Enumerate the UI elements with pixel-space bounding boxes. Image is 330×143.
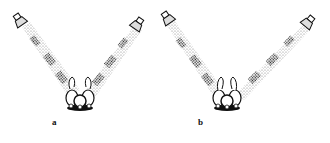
panel-a xyxy=(11,11,146,111)
panel-b xyxy=(159,9,317,111)
panel-label-b: b xyxy=(198,117,203,127)
sound-beam-right-b xyxy=(236,22,312,100)
listener-figure xyxy=(66,77,94,111)
sound-beam-right-a xyxy=(86,26,142,96)
sound-beam-left-b xyxy=(166,20,222,94)
panel-label-a: a xyxy=(52,117,57,127)
figure-canvas xyxy=(0,0,330,143)
